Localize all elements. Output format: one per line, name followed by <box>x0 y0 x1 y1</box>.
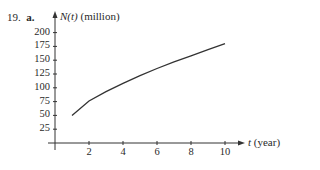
y-tick-label: 75 <box>20 95 50 106</box>
y-axis-arrow-icon <box>53 11 58 18</box>
y-tick-label: 200 <box>20 26 50 37</box>
x-axis-label: t (year) <box>248 136 280 148</box>
x-tick-label: 8 <box>181 146 201 157</box>
x-tick-label: 6 <box>147 146 167 157</box>
y-tick-label: 175 <box>20 39 50 50</box>
x-tick-label: 4 <box>113 146 133 157</box>
y-tick-label: 100 <box>20 81 50 92</box>
y-tick-label: 125 <box>20 67 50 78</box>
y-tick-label: 25 <box>20 122 50 133</box>
x-tick-label: 10 <box>215 146 235 157</box>
data-curve <box>72 44 225 116</box>
y-axis-label: N(t) (million) <box>60 10 120 22</box>
x-axis-arrow-icon <box>238 141 245 146</box>
x-tick-label: 2 <box>79 146 99 157</box>
y-tick-label: 50 <box>20 108 50 119</box>
y-tick-label: 150 <box>20 53 50 64</box>
